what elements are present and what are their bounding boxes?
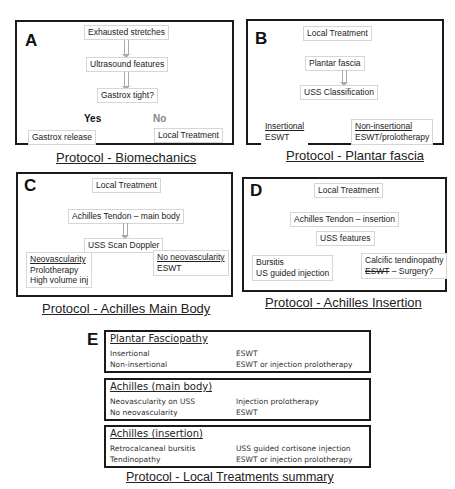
caption-d: Protocol - Achilles Insertion [265, 295, 422, 310]
neovascularity-treatment-1: Prolotherapy [30, 265, 88, 276]
summary-achilles-main-body: Achilles (main body) Neovascularity on U… [104, 378, 371, 421]
panel-letter-e: E [87, 331, 98, 348]
node-plantar-fascia: Plantar fascia [305, 56, 365, 71]
insertional-title: Insertional [265, 121, 304, 132]
row-treatment: ESWT or injection prolotherapy [236, 455, 352, 464]
caption-b: Protocol - Plantar fascia [286, 148, 424, 163]
node-local-treatment: Local Treatment [92, 178, 161, 193]
node-achilles-main-body: Achilles Tendon – main body [68, 209, 184, 224]
panel-letter: B [255, 30, 267, 47]
section-title: Plantar Fasciopathy [110, 333, 208, 344]
surgery-text: – Surgery? [389, 266, 433, 276]
caption-c: Protocol - Achilles Main Body [42, 301, 210, 316]
yes-label: Yes [84, 113, 101, 124]
neovascularity-treatment-2: High volume inj [30, 275, 88, 286]
row-treatment: ESWT [236, 349, 258, 358]
caption-a: Protocol - Biomechanics [56, 150, 196, 165]
caption-e: Protocol - Local Treatments summary [126, 470, 334, 484]
row-treatment: ESWT [236, 408, 258, 417]
non-insertional-treatment: ESWT/prolotherapy [355, 132, 429, 143]
node-uss-features: USS features [316, 231, 375, 246]
panel-a-biomechanics: A Exhausted stretches Ultrasound feature… [15, 20, 234, 145]
bursitis-title: Bursitis [256, 257, 329, 268]
no-neovascularity-title: No neovascularity [157, 252, 225, 263]
insertional-treatment: ESWT [265, 132, 304, 143]
down-arrow-icon [124, 40, 129, 54]
section-title: Achilles (insertion) [110, 428, 203, 439]
node-exhausted-stretches: Exhausted stretches [84, 25, 169, 40]
node-achilles-insertion: Achilles Tendon – insertion [290, 212, 399, 227]
row-condition: No neovascularity [110, 408, 178, 417]
row-treatment: Injection prolotherapy [236, 397, 319, 406]
node-bursitis: Bursitis US guided injection [252, 255, 333, 281]
node-local-treatment: Local Treatment [154, 128, 223, 143]
panel-letter: A [25, 32, 37, 49]
node-ultrasound-features: Ultrasound features [86, 57, 168, 72]
node-insertional: Insertional ESWT [261, 119, 308, 145]
down-arrow-icon [124, 72, 129, 86]
section-title: Achilles (main body) [110, 381, 212, 392]
node-gastrox-tight: Gastrox tight? [97, 88, 158, 103]
row-treatment: ESWT or injection prolotherapy [236, 360, 352, 369]
eswt-struck: ESWT [365, 266, 389, 276]
node-uss-classification: USS Classification [300, 85, 378, 100]
row-treatment: USS guided cortisone injection [236, 444, 351, 453]
calcific-treatment: ESWT – Surgery? [365, 266, 443, 277]
panel-letter: D [250, 182, 262, 199]
node-local-treatment: Local Treatment [303, 26, 372, 41]
summary-plantar-fasciopathy: Plantar Fasciopathy Insertional ESWT Non… [104, 330, 371, 373]
panel-d-achilles-insertion: D Local Treatment Achilles Tendon – inse… [242, 177, 447, 292]
node-local-treatment: Local Treatment [314, 183, 383, 198]
panel-letter: C [24, 177, 36, 194]
node-non-insertional: Non-insertional ESWT/prolotherapy [351, 119, 433, 145]
panel-b-plantar-fascia: B Local Treatment Plantar fascia USS Cla… [246, 19, 444, 145]
bursitis-treatment: US guided injection [256, 268, 329, 279]
row-condition: Retrocalcaneal bursitis [110, 444, 195, 453]
row-condition: Non-insertional [110, 360, 167, 369]
non-insertional-title: Non-insertional [355, 121, 429, 132]
neovascularity-title: Neovascularity [30, 254, 88, 265]
node-calcific-tendinopathy: Calcific tendinopathy ESWT – Surgery? [361, 253, 447, 279]
summary-achilles-insertion: Achilles (insertion) Retrocalcaneal burs… [104, 425, 371, 468]
panel-c-achilles-main-body: C Local Treatment Achilles Tendon – main… [16, 172, 233, 297]
node-neovascularity: Neovascularity Prolotherapy High volume … [26, 252, 92, 288]
row-condition: Insertional [110, 349, 150, 358]
node-no-neovascularity: No neovascularity ESWT [153, 250, 229, 276]
node-gastrox-release: Gastrox release [28, 130, 96, 145]
row-condition: Neovascularity on USS [110, 397, 195, 406]
node-uss-scan-doppler: USS Scan Doppler [84, 238, 163, 253]
no-neovascularity-treatment: ESWT [157, 263, 225, 274]
down-arrow-icon [342, 70, 347, 82]
no-label: No [153, 113, 166, 124]
calcific-title: Calcific tendinopathy [365, 255, 443, 266]
row-condition: Tendinopathy [110, 455, 160, 464]
down-arrow-icon [123, 223, 128, 235]
